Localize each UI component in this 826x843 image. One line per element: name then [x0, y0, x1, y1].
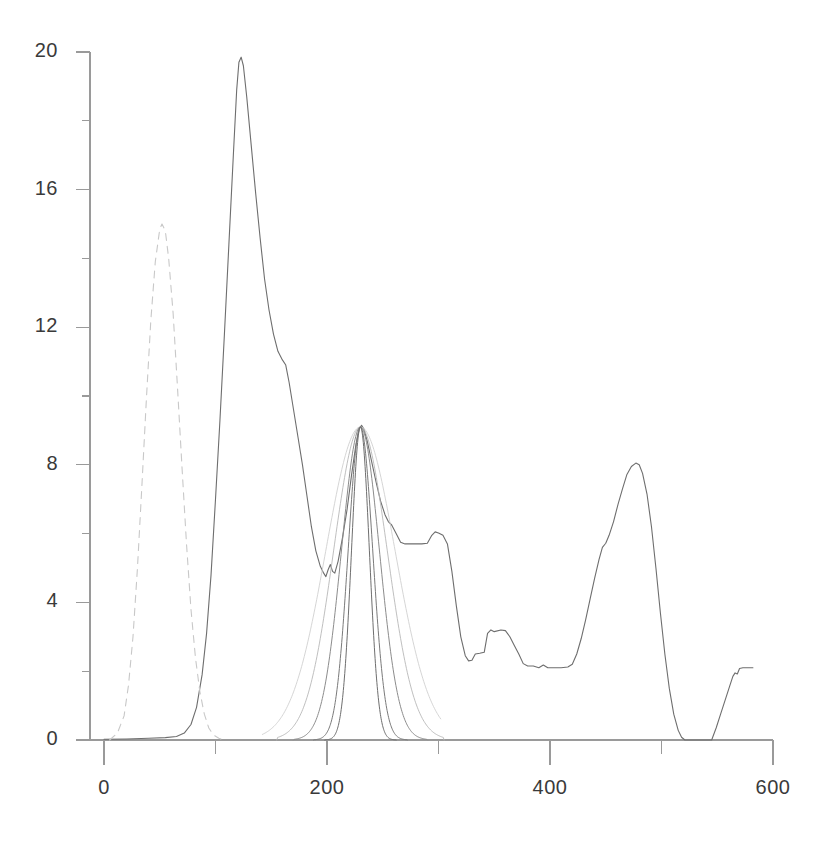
- chart-plot-area: [0, 0, 826, 843]
- series-fit-gaussian-medium: [294, 427, 428, 740]
- y-axis-tick-label: 20: [10, 39, 58, 62]
- series-fit-gaussian-narrow: [314, 427, 408, 740]
- y-axis-tick-label: 16: [10, 177, 58, 200]
- series-reference-gaussian-dashed: [110, 224, 225, 740]
- x-axis-tick-label: 600: [733, 776, 813, 799]
- y-axis-tick-label: 8: [10, 452, 58, 475]
- series-measured-spectrum: [104, 57, 753, 740]
- x-axis-tick-label: 200: [287, 776, 367, 799]
- y-axis-tick-label: 12: [10, 314, 58, 337]
- series-fit-gaussian-wide: [277, 427, 444, 740]
- series-fit-gaussian-narrowest: [325, 427, 396, 740]
- series-lines: [104, 57, 753, 740]
- axis-lines: [76, 52, 773, 765]
- y-axis-tick-label: 0: [10, 727, 58, 750]
- x-axis-tick-label: 0: [64, 776, 144, 799]
- y-axis-tick-label: 4: [10, 589, 58, 612]
- chart-container: 048121620 0200400600: [0, 0, 826, 843]
- x-axis-tick-label: 400: [510, 776, 590, 799]
